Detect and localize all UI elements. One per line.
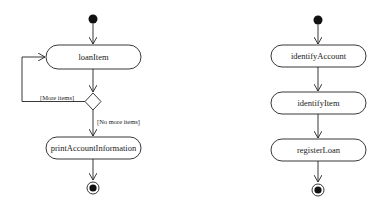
final-node-right [312, 184, 324, 196]
action-registerloan[interactable]: registerLoan [271, 139, 366, 161]
action-identifyaccount[interactable]: identifyAccount [271, 45, 366, 67]
decision-node [85, 93, 101, 110]
action-identifyitem[interactable]: identifyItem [271, 92, 366, 114]
guard-no-more-items: [No more items] [97, 118, 140, 126]
initial-node-left [89, 15, 98, 24]
left-activity-diagram: loanItem [More items] [No more items] pr… [22, 15, 141, 195]
guard-more-items: [More items] [40, 94, 74, 102]
action-label: loanItem [78, 52, 109, 62]
action-label: identifyAccount [291, 51, 347, 61]
action-printaccountinformation[interactable]: printAccountInformation [46, 137, 141, 159]
action-label: printAccountInformation [51, 143, 137, 153]
right-activity-diagram: identifyAccount identifyItem registerLoa… [271, 16, 366, 197]
action-label: identifyItem [297, 98, 339, 108]
action-label: registerLoan [297, 145, 341, 155]
final-node-left [87, 182, 99, 194]
action-loanitem[interactable]: loanItem [46, 45, 141, 69]
initial-node-right [314, 16, 323, 25]
